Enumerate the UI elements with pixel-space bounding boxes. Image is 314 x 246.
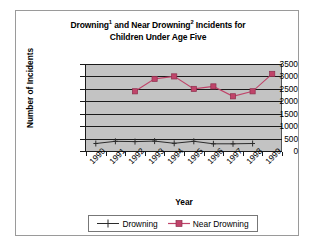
- x-tick-mark: [282, 152, 283, 156]
- data-point-marker: [132, 89, 137, 94]
- x-tick-mark: [86, 152, 87, 156]
- x-tick-mark: [125, 152, 126, 156]
- x-tick-mark: [262, 152, 263, 156]
- data-point-marker: [172, 140, 177, 146]
- legend-marker-plus-icon: [97, 219, 119, 228]
- y-tick-mark: [80, 139, 85, 140]
- data-point-marker: [152, 76, 157, 81]
- x-tick-mark: [106, 152, 107, 156]
- chart-title-line2: Children Under Age Five: [110, 32, 207, 42]
- data-point-marker: [93, 141, 98, 147]
- y-tick-mark: [80, 151, 85, 152]
- chart-legend: Drowning Near Drowning: [88, 215, 258, 232]
- y-tick-mark: [80, 76, 85, 77]
- y-tick-mark: [80, 64, 85, 65]
- y-tick-mark: [80, 101, 85, 102]
- y-tick-mark: [80, 126, 85, 127]
- data-point-marker: [250, 89, 255, 94]
- legend-label-drowning: Drowning: [122, 219, 157, 229]
- data-point-marker: [211, 141, 216, 147]
- x-tick-mark: [243, 152, 244, 156]
- series-layer: [86, 64, 282, 152]
- data-point-marker: [230, 94, 235, 99]
- x-tick-mark: [145, 152, 146, 156]
- x-tick-mark: [164, 152, 165, 156]
- data-point-marker: [211, 84, 216, 89]
- data-point-marker: [113, 138, 118, 144]
- x-tick-mark: [223, 152, 224, 156]
- chart-title-line1-mid: and Near Drowning: [112, 20, 191, 30]
- data-point-marker: [133, 139, 138, 145]
- legend-label-near-drowning: Near Drowning: [193, 219, 249, 229]
- chart-title-line1-post: Incidents for: [194, 20, 246, 30]
- chart-frame: Drowning1 and Near Drowning2 Incidents f…: [15, 10, 299, 236]
- data-point-marker: [152, 138, 157, 144]
- data-point-marker: [270, 71, 275, 76]
- x-tick-mark: [204, 152, 205, 156]
- y-tick-mark: [80, 89, 85, 90]
- y-tick-mark: [80, 114, 85, 115]
- data-point-marker: [250, 141, 255, 147]
- data-point-marker: [191, 86, 196, 91]
- x-tick-mark: [184, 152, 185, 156]
- legend-item-drowning[interactable]: Drowning: [97, 219, 157, 229]
- chart-title-line1-pre: Drowning: [70, 20, 108, 30]
- chart-title: Drowning1 and Near Drowning2 Incidents f…: [16, 20, 300, 43]
- legend-marker-square-icon: [168, 219, 190, 228]
- x-axis-title: Year: [86, 197, 282, 207]
- data-point-marker: [231, 141, 236, 147]
- data-point-marker: [191, 138, 196, 144]
- data-point-marker: [172, 74, 177, 79]
- legend-item-near-drowning[interactable]: Near Drowning: [168, 219, 249, 229]
- y-axis-title: Number of Incidents: [25, 33, 35, 143]
